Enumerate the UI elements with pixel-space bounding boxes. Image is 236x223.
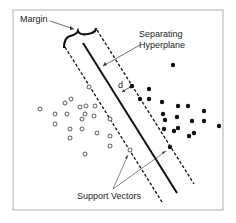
filled-point — [186, 104, 190, 108]
open-point — [38, 107, 42, 111]
filled-point — [163, 118, 167, 122]
filled-point — [130, 84, 134, 88]
open-point — [68, 127, 72, 131]
open-point — [108, 117, 112, 121]
open-point — [92, 114, 96, 118]
margin-label: Margin — [20, 14, 48, 25]
open-point — [95, 131, 99, 135]
filled-point — [202, 119, 206, 123]
open-point — [53, 112, 57, 116]
open-point — [69, 97, 73, 101]
open-point — [87, 85, 91, 89]
filled-point — [175, 115, 179, 119]
filled-point — [161, 112, 165, 116]
filled-point — [217, 124, 221, 128]
open-point — [128, 148, 132, 152]
open-point — [83, 112, 87, 116]
support-vectors-label: Support Vectors — [77, 191, 141, 202]
open-point — [80, 127, 84, 131]
open-point — [68, 136, 72, 140]
open-point — [83, 152, 87, 156]
open-point — [65, 112, 69, 116]
filled-point — [168, 145, 172, 149]
hyperplane-label-line2: Hyperplane — [139, 40, 185, 51]
filled-point — [172, 129, 176, 133]
open-point — [80, 117, 84, 121]
filled-point — [176, 126, 180, 130]
filled-point — [202, 109, 206, 113]
hyperplane-label-line1: Separating — [139, 29, 183, 40]
open-point — [108, 134, 112, 138]
distance-label: d — [118, 80, 123, 91]
open-point — [84, 104, 88, 108]
filled-point — [160, 100, 164, 104]
filled-point — [138, 97, 142, 101]
open-point — [108, 144, 112, 148]
open-point — [93, 104, 97, 108]
open-point — [53, 122, 57, 126]
filled-point — [147, 87, 151, 91]
filled-point — [162, 127, 166, 131]
filled-point — [147, 97, 151, 101]
open-point — [78, 105, 82, 109]
open-point — [63, 101, 67, 105]
svm-diagram — [0, 0, 236, 223]
filled-point — [176, 104, 180, 108]
filled-point — [171, 63, 175, 67]
filled-point — [187, 134, 191, 138]
filled-point — [192, 131, 196, 135]
filled-point — [190, 119, 194, 123]
